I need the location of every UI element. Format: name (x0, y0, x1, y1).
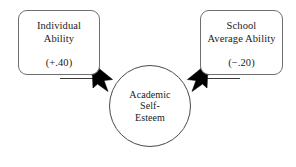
node-academic-self-esteem-label: Academic Self- Esteem (129, 89, 170, 124)
node-school-average-ability-label: School Average Ability (207, 20, 275, 45)
node-individual-ability[interactable]: Individual Ability (+.40) (18, 10, 100, 75)
node-academic-self-esteem[interactable]: Academic Self- Esteem (109, 65, 191, 147)
node-individual-ability-label: Individual Ability (37, 20, 81, 45)
node-school-average-ability-value: (−.20) (228, 57, 255, 69)
node-individual-ability-value: (+.40) (46, 57, 73, 69)
path-diagram: Individual Ability (+.40) School Average… (0, 0, 296, 167)
node-school-average-ability[interactable]: School Average Ability (−.20) (200, 10, 283, 75)
